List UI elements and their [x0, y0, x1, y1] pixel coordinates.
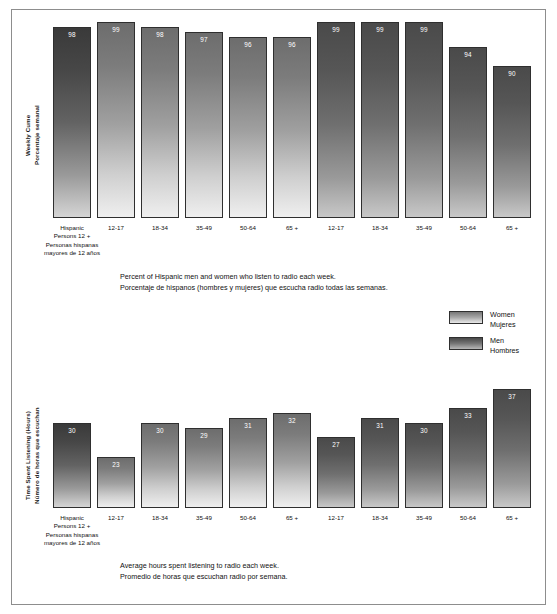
- chart-legend: WomenMujeresMenHombres: [449, 310, 549, 362]
- bar-slot-inner: 37: [490, 386, 534, 508]
- x-axis-label: HispanicPersons 12 +Personas hispanasmay…: [50, 514, 94, 531]
- x-axis-label: 12-17: [94, 514, 138, 531]
- bar-slot: 97: [182, 18, 226, 218]
- bar-slot-inner: 30: [138, 386, 182, 508]
- bar-slot: 99: [94, 18, 138, 218]
- bar-slot: 96: [226, 18, 270, 218]
- bar-slot-inner: 33: [446, 386, 490, 508]
- bar[interactable]: 33: [449, 408, 487, 508]
- tsl-axis-title: Time Spent Listening (Hours) Número de h…: [24, 388, 42, 523]
- x-axis-label: 18-34: [138, 514, 182, 531]
- bar[interactable]: 31: [229, 418, 267, 508]
- x-axis-label: 18-34: [138, 224, 182, 241]
- weekly-cume-caption: Percent of Hispanic men and women who li…: [120, 272, 388, 294]
- bar-slot-inner: 94: [446, 18, 490, 218]
- bar[interactable]: 30: [53, 423, 91, 508]
- bar-slot: 30: [138, 386, 182, 508]
- bar-slot-inner: 31: [358, 386, 402, 508]
- bar-value-label: 96: [230, 41, 266, 48]
- x-axis-label: 18-34: [358, 224, 402, 241]
- bar-value-label: 99: [98, 26, 134, 33]
- bar-slot-inner: 98: [138, 18, 182, 218]
- x-axis-label-line1: 50-64: [446, 224, 490, 232]
- bar-slot-inner: 32: [270, 386, 314, 508]
- bar[interactable]: 99: [317, 22, 355, 218]
- bar[interactable]: 97: [185, 32, 223, 218]
- bar-slot: 94: [446, 18, 490, 218]
- bar[interactable]: 98: [53, 27, 91, 218]
- bar-value-label: 30: [54, 427, 90, 434]
- bar-value-label: 23: [98, 461, 134, 468]
- tsl-plot-area: 3023302931322731303337: [50, 386, 534, 508]
- bar-slot: 98: [50, 18, 94, 218]
- x-axis-label-line1: 50-64: [226, 514, 270, 522]
- x-axis-label-line2: Persons 12 +: [50, 522, 94, 530]
- bar-value-label: 32: [274, 417, 310, 424]
- axis-title-es: Porcentaje semanal: [33, 70, 42, 200]
- legend-swatch-women: [449, 311, 483, 324]
- bar-value-label: 98: [54, 31, 90, 38]
- weekly-cume-x-axis-labels: HispanicPersons 12 +Personas hispanasmay…: [50, 224, 534, 241]
- weekly-cume-axis-title: Weekly Cume Porcentaje semanal: [24, 70, 42, 200]
- bar-slot-inner: 96: [270, 18, 314, 218]
- bar-value-label: 99: [362, 26, 398, 33]
- bar-slot: 32: [270, 386, 314, 508]
- axis-title-en: Time Spent Listening (Hours): [24, 388, 33, 523]
- bar-slot-inner: 31: [226, 386, 270, 508]
- bar-value-label: 96: [274, 41, 310, 48]
- x-axis-label: 35-49: [402, 224, 446, 241]
- bar[interactable]: 27: [317, 437, 355, 508]
- x-axis-label-line1: 18-34: [138, 224, 182, 232]
- bar[interactable]: 30: [141, 423, 179, 508]
- bar-slot-inner: 98: [50, 18, 94, 218]
- legend-item[interactable]: MenHombres: [449, 336, 549, 357]
- bar[interactable]: 31: [361, 418, 399, 508]
- bar[interactable]: 98: [141, 27, 179, 218]
- x-axis-label: 65 +: [490, 224, 534, 241]
- x-axis-label-line1: 65 +: [490, 224, 534, 232]
- x-axis-label-line1: 65 +: [490, 514, 534, 522]
- x-axis-label: 65 +: [270, 514, 314, 531]
- bar-slot-inner: 27: [314, 386, 358, 508]
- legend-item[interactable]: WomenMujeres: [449, 310, 549, 331]
- bar-slot: 98: [138, 18, 182, 218]
- bar-value-label: 97: [186, 36, 222, 43]
- bar[interactable]: 96: [273, 37, 311, 218]
- bar-value-label: 30: [406, 427, 442, 434]
- x-axis-label-line1: 50-64: [226, 224, 270, 232]
- bar[interactable]: 99: [405, 22, 443, 218]
- bar-slot: 29: [182, 386, 226, 508]
- tsl-x-axis-labels: HispanicPersons 12 +Personas hispanasmay…: [50, 514, 534, 531]
- x-axis-label: 50-64: [226, 514, 270, 531]
- bar-slot-inner: 96: [226, 18, 270, 218]
- bar-slot: 37: [490, 386, 534, 508]
- bar-value-label: 99: [406, 26, 442, 33]
- bar[interactable]: 94: [449, 47, 487, 218]
- bar[interactable]: 30: [405, 423, 443, 508]
- bar[interactable]: 23: [97, 457, 135, 508]
- x-axis-label: 18-34: [358, 514, 402, 531]
- x-axis-label-line2: Persons 12 +: [50, 232, 94, 240]
- bar[interactable]: 90: [493, 66, 531, 218]
- bar[interactable]: 99: [361, 22, 399, 218]
- bar-slot: 33: [446, 386, 490, 508]
- bar-value-label: 31: [362, 422, 398, 429]
- legend-label-en: Women: [490, 310, 516, 320]
- bar-value-label: 27: [318, 441, 354, 448]
- legend-label-es: Mujeres: [490, 320, 516, 330]
- bar[interactable]: 96: [229, 37, 267, 218]
- x-axis-label: 50-64: [226, 224, 270, 241]
- bar[interactable]: 32: [273, 413, 311, 508]
- bar[interactable]: 37: [493, 389, 531, 508]
- bar-value-label: 29: [186, 432, 222, 439]
- bar-slot: 99: [314, 18, 358, 218]
- x-axis-label-line1: 35-49: [182, 224, 226, 232]
- bar[interactable]: 29: [185, 428, 223, 508]
- bar-value-label: 90: [494, 70, 530, 77]
- bar[interactable]: 99: [97, 22, 135, 218]
- legend-label: MenHombres: [490, 336, 519, 357]
- x-axis-label: 12-17: [94, 224, 138, 241]
- x-axis-label-line1: 12-17: [94, 514, 138, 522]
- bar-slot: 90: [490, 18, 534, 218]
- bar-slot-inner: 99: [314, 18, 358, 218]
